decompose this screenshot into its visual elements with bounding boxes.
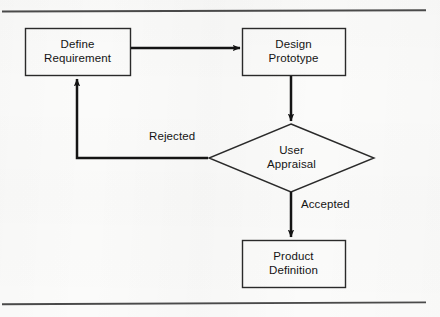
- node-label-define-requirement: Define Requirement: [25, 38, 130, 65]
- edge-label-accepted: Accepted: [301, 198, 350, 211]
- top-rule: [2, 10, 426, 11]
- edge-label-rejected: Rejected: [149, 130, 195, 143]
- node-label-product-definition: Product Definition: [242, 250, 345, 277]
- flowchart-canvas: Define Requirement Design Prototype User…: [0, 0, 440, 317]
- edge-appraisal-rejected-to-define: [77, 79, 208, 158]
- bottom-rule: [2, 302, 426, 304]
- node-label-design-prototype: Design Prototype: [242, 38, 345, 65]
- node-label-user-appraisal: User Appraisal: [240, 144, 343, 171]
